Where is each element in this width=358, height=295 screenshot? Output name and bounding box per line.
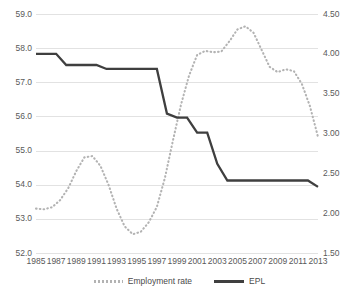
y-axis-left-tick: 59.0: [15, 10, 32, 19]
y-axis-right-tick: 3.00: [323, 129, 340, 138]
y-axis-right-tick: 4.00: [323, 49, 340, 58]
y-axis-right-tick: 2.00: [323, 209, 340, 218]
plot-area: [36, 14, 318, 253]
y-axis-left-tick: 55.0: [15, 146, 32, 155]
chart-legend: Employment rateEPL: [0, 276, 358, 286]
x-axis-tick: 2007: [248, 256, 267, 266]
x-axis-tick: 1995: [127, 256, 146, 266]
legend-item[interactable]: Employment rate: [93, 276, 192, 286]
x-axis-tick: 1997: [147, 256, 166, 266]
y-axis-right-tick: 2.50: [323, 169, 340, 178]
x-axis-tick: 2005: [228, 256, 247, 266]
y-axis-left-tick: 56.0: [15, 112, 32, 121]
legend-dotted-line-icon: [93, 280, 123, 283]
y-axis-right-tick: 3.50: [323, 89, 340, 98]
legend-solid-line-icon: [214, 280, 244, 283]
y-axis-left-tick: 57.0: [15, 78, 32, 87]
x-axis-tick: 1985: [27, 256, 46, 266]
legend-item-label: EPL: [249, 276, 265, 286]
x-axis-tick: 1989: [67, 256, 86, 266]
y-axis-left-tick: 54.0: [15, 180, 32, 189]
series-line-employment-rate: [36, 26, 318, 234]
legend-item[interactable]: EPL: [214, 276, 265, 286]
dual-axis-line-chart: 59.058.057.056.055.054.053.052.0 4.504.0…: [0, 0, 358, 295]
x-axis-tick: 2013: [309, 256, 328, 266]
x-axis-tick: 1993: [107, 256, 126, 266]
y-axis-right-tick: 4.50: [323, 10, 340, 19]
x-axis: 1985198719891991199319951997199920012003…: [36, 256, 318, 270]
x-axis-tick: 2001: [188, 256, 207, 266]
legend-item-label: Employment rate: [128, 276, 192, 286]
x-axis-tick: 1991: [87, 256, 106, 266]
gridline: [36, 253, 318, 254]
series-layer: [36, 14, 318, 253]
x-axis-tick: 2003: [208, 256, 227, 266]
y-axis-left-tick: 53.0: [15, 214, 32, 223]
x-axis-tick: 1999: [168, 256, 187, 266]
y-axis-left-tick: 58.0: [15, 44, 32, 53]
x-axis-tick: 2009: [268, 256, 287, 266]
x-axis-tick: 2011: [289, 256, 307, 266]
x-axis-tick: 1987: [47, 256, 66, 266]
